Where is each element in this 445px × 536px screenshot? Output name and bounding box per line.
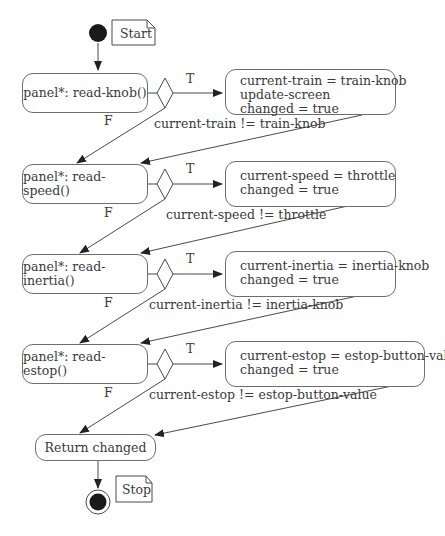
result-line: changed = true [240, 183, 395, 197]
result-line: current-train = train-knob [240, 74, 395, 88]
false-label: F [104, 206, 113, 220]
action-label: Return changed [45, 441, 147, 455]
action-read-knob: panel*: read-knob() [22, 73, 148, 113]
result-line: current-speed = throttle [240, 169, 395, 183]
condition-label: current-estop != estop-button-value [149, 388, 377, 402]
action-return-changed: Return changed [35, 434, 156, 461]
condition-label: current-speed != throttle [166, 208, 326, 222]
stop-note: Stop [116, 476, 152, 502]
start-note: Start [112, 20, 155, 45]
result-line: changed = true [240, 273, 395, 287]
action-label: panel*: read-speed() [23, 170, 147, 198]
start-note-label: Start [120, 26, 152, 41]
result-estop: current-estop = estop-button-value chang… [225, 341, 425, 387]
result-line: current-estop = estop-button-value [240, 349, 424, 363]
true-label: T [186, 252, 194, 266]
initial-node-icon [89, 24, 107, 42]
action-label: panel*: read-inertia() [23, 260, 147, 288]
condition-label: current-inertia != inertia-knob [149, 298, 343, 312]
false-label: F [104, 114, 113, 128]
true-label: T [186, 342, 194, 356]
action-label: panel*: read-knob() [23, 86, 146, 100]
result-line: changed = true [240, 363, 424, 377]
result-inertia: current-inertia = inertia-knob changed =… [225, 251, 396, 297]
true-label: T [186, 162, 194, 176]
action-read-speed: panel*: read-speed() [22, 164, 148, 204]
false-label: F [104, 296, 113, 310]
action-read-estop: panel*: read-estop() [22, 344, 148, 384]
result-line: changed = true [240, 102, 395, 116]
false-label: F [104, 386, 113, 400]
result-line: current-inertia = inertia-knob [240, 259, 395, 273]
condition-label: current-train != train-knob [154, 117, 326, 131]
final-node-icon [90, 494, 107, 511]
result-line: update-screen [240, 88, 395, 102]
action-read-inertia: panel*: read-inertia() [22, 254, 148, 294]
stop-note-label: Stop [122, 482, 151, 497]
true-label: T [186, 72, 194, 86]
result-speed: current-speed = throttle changed = true [225, 161, 396, 207]
result-knob: current-train = train-knob update-screen… [225, 69, 396, 115]
action-label: panel*: read-estop() [23, 350, 147, 378]
